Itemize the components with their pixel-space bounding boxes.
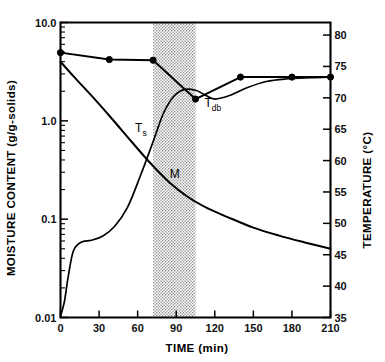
y-tick-label: 10.0 bbox=[35, 17, 56, 29]
x-tick-label: 30 bbox=[93, 322, 105, 334]
annotation-M: M bbox=[170, 167, 180, 181]
x-tick-label: 60 bbox=[132, 322, 144, 334]
y-tick-label: 0.01 bbox=[35, 312, 56, 324]
y-tick-label: 0.1 bbox=[41, 213, 56, 225]
y2-tick-label: 65 bbox=[335, 123, 347, 135]
y2-tick-label: 50 bbox=[335, 217, 347, 229]
x-tick-label: 150 bbox=[244, 322, 262, 334]
x-tick-label: 120 bbox=[206, 322, 224, 334]
y2-tick-label: 60 bbox=[335, 155, 347, 167]
drying-curve-chart: 0.010.11.010.035404550556065707580030609… bbox=[0, 0, 385, 362]
series-marker-Tdb bbox=[106, 56, 112, 62]
y2-tick-label: 70 bbox=[335, 92, 347, 104]
series-marker-Tdb bbox=[150, 57, 156, 63]
x-axis-title: TIME (min) bbox=[166, 342, 229, 354]
x-tick-label: 210 bbox=[321, 322, 339, 334]
figure-container: 0.010.11.010.035404550556065707580030609… bbox=[0, 0, 385, 362]
y2-tick-label: 55 bbox=[335, 186, 347, 198]
series-marker-Tdb bbox=[57, 50, 63, 56]
series-marker-Tdb bbox=[237, 74, 243, 80]
y2-axis-title: TEMPERATURE (°C) bbox=[361, 132, 373, 249]
series-marker-Tdb bbox=[327, 74, 333, 80]
y2-tick-label: 40 bbox=[335, 280, 347, 292]
y2-tick-label: 45 bbox=[335, 249, 347, 261]
x-tick-label: 180 bbox=[283, 322, 301, 334]
y-axis-title: MOISTURE CONTENT (g/g-solids) bbox=[5, 80, 17, 276]
y-tick-label: 1.0 bbox=[41, 115, 56, 127]
x-tick-label: 0 bbox=[57, 322, 63, 334]
x-tick-label: 90 bbox=[170, 322, 182, 334]
series-marker-Tdb bbox=[192, 96, 198, 102]
y2-tick-label: 80 bbox=[335, 29, 347, 41]
y2-tick-label: 75 bbox=[335, 60, 347, 72]
series-marker-Tdb bbox=[289, 74, 295, 80]
